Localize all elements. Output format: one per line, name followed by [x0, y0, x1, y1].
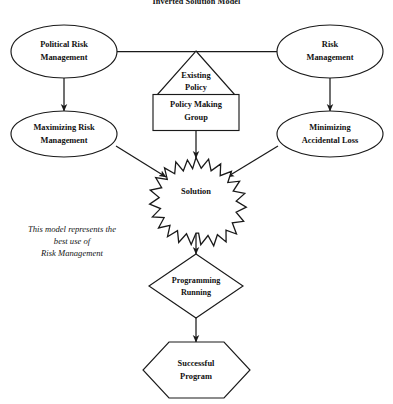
node-minimizing-accidental-loss[interactable]: Minimizing Accidental Loss [277, 111, 383, 157]
node-maximizing-risk-management-line1: Maximizing Risk [33, 123, 95, 132]
node-successful-program[interactable]: Successful Program [143, 342, 250, 398]
model-note-line1: This model represents the [12, 223, 132, 235]
connector-minimizing-to-solution [227, 146, 278, 177]
node-risk-management-line1: Risk [322, 40, 339, 49]
node-programming-running-line1: Programming [172, 276, 220, 285]
node-successful-program-line1: Successful [178, 359, 215, 368]
node-existing-policy-line1: Existing [181, 71, 211, 80]
node-programming-running[interactable]: Programming Running [149, 254, 243, 318]
node-maximizing-risk-management-line2: Management [41, 136, 88, 145]
node-political-risk-management[interactable]: Political Risk Management [11, 25, 117, 78]
inverted-solution-model-diagram: Political Risk Management Risk Managemen… [0, 0, 393, 404]
diagram-canvas: Inverted Solution Model Political Risk [0, 0, 393, 404]
node-successful-program-line2: Program [180, 372, 212, 381]
node-political-risk-management-line2: Management [41, 53, 88, 62]
node-minimizing-accidental-loss-line2: Accidental Loss [302, 136, 359, 145]
node-existing-policy[interactable]: Existing Policy [157, 51, 235, 95]
node-risk-management-line2: Management [307, 53, 354, 62]
node-risk-management[interactable]: Risk Management [277, 25, 383, 78]
node-policy-making-group-line2: Group [184, 113, 208, 122]
model-note-line3: Risk Management [12, 247, 132, 259]
node-maximizing-risk-management[interactable]: Maximizing Risk Management [11, 111, 117, 157]
model-note-line2: best use of [12, 235, 132, 247]
node-existing-policy-line2: Policy [185, 83, 208, 92]
model-note: This model represents the best use of Ri… [12, 223, 132, 260]
node-policy-making-group[interactable]: Policy Making Group [153, 95, 239, 131]
node-solution[interactable]: Solution [150, 158, 247, 246]
node-programming-running-line2: Running [181, 288, 211, 297]
connector-maximizing-to-solution [116, 146, 166, 177]
node-minimizing-accidental-loss-line1: Minimizing [309, 123, 351, 132]
node-solution-label: Solution [181, 187, 211, 196]
node-political-risk-management-line1: Political Risk [40, 40, 88, 49]
node-policy-making-group-line1: Policy Making [170, 100, 223, 109]
